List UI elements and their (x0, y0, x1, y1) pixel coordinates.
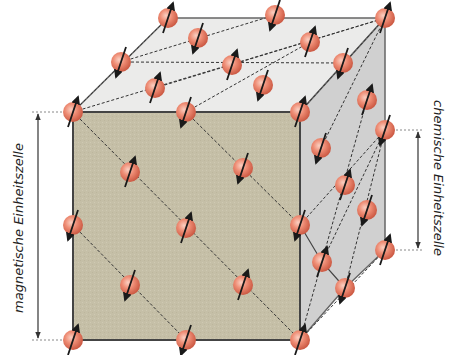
label-word-1: chemische (431, 100, 446, 170)
magnetic-cell-dimension (32, 112, 66, 340)
magnetic-unit-cell-label: magnetische Einheitszelle (11, 143, 26, 313)
chemical-cell-dimension (392, 130, 424, 250)
crystal-lattice-diagram (0, 0, 456, 355)
label-word-2: Einheitszelle (11, 143, 26, 225)
label-word-1: magnetische (11, 229, 26, 313)
label-word-2: Einheitszelle (431, 174, 446, 256)
chemical-unit-cell-label: chemische Einheitszelle (431, 100, 446, 256)
